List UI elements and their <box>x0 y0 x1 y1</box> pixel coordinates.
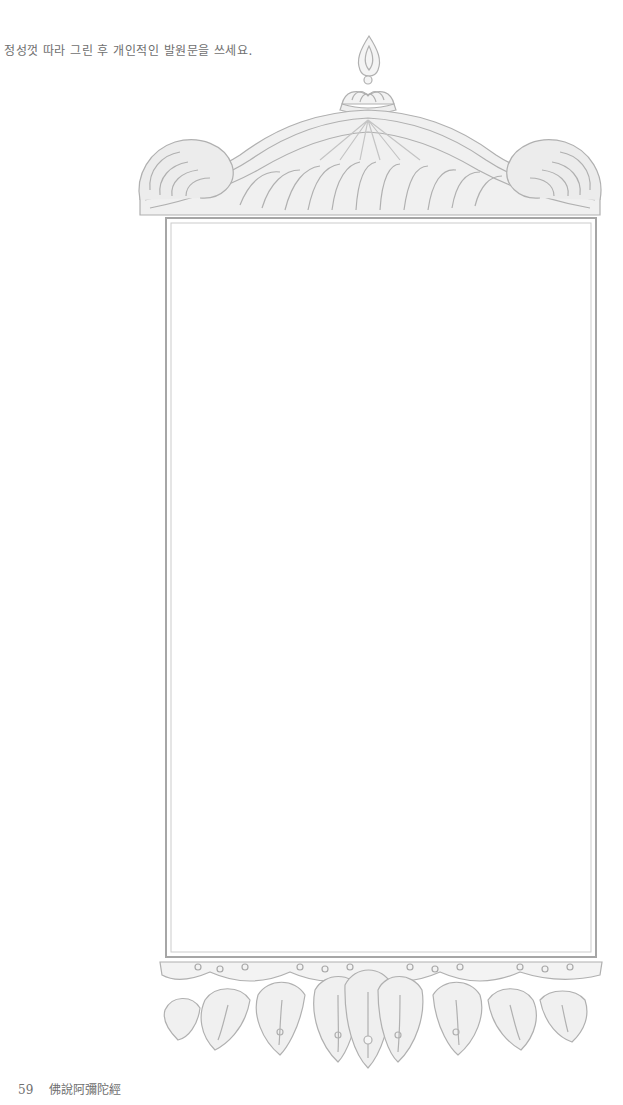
page-number: 59 <box>18 1083 45 1097</box>
page-footer: 59 佛說阿彌陀經 <box>18 1080 121 1097</box>
lotus-base-ornament-icon <box>160 962 602 1068</box>
ornamental-frame-illustration <box>0 0 623 1105</box>
sutra-title: 佛說阿彌陀經 <box>49 1083 121 1097</box>
canopy-ornament-icon <box>139 110 601 215</box>
flame-finial-icon <box>340 36 396 120</box>
